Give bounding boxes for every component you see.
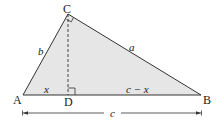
side-label-c: c [110, 107, 115, 119]
vertex-label-d: D [64, 95, 73, 109]
side-label-a: a [129, 41, 135, 53]
vertex-label-b: B [203, 93, 211, 107]
side-label-c-minus-x: c − x [126, 83, 149, 95]
vertex-label-c: C [63, 2, 71, 16]
side-label-b: b [38, 45, 44, 57]
triangle-diagram: A B C D b a x c − x c [0, 0, 221, 122]
vertex-label-a: A [13, 93, 22, 107]
triangle-abc [23, 14, 201, 95]
side-label-x: x [43, 83, 49, 95]
arrowhead-right-icon [196, 111, 201, 114]
arrowhead-left-icon [23, 111, 28, 114]
